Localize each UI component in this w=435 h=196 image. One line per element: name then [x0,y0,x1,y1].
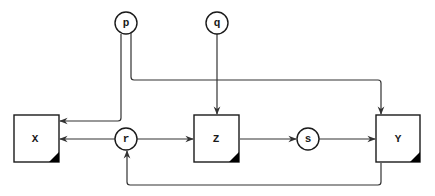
causal-diagram: p q r s X Z Y [0,0,435,196]
node-q: q [206,12,228,34]
node-p: p [115,12,137,34]
edge-p-to-y [131,33,381,114]
node-z: Z [194,115,239,162]
node-s-label: s [305,133,312,145]
node-p-label: p [123,17,130,29]
node-x: X [14,115,59,162]
node-y: Y [376,115,420,162]
node-r-label: r [123,133,130,145]
node-z-label: Z [213,133,220,145]
node-y-label: Y [395,133,402,145]
node-q-label: q [214,17,221,29]
node-x-label: X [32,133,39,145]
node-r: r [115,128,137,150]
edge-p-to-x [60,34,121,121]
edge-y-to-r [127,151,381,185]
node-s: s [297,128,319,150]
